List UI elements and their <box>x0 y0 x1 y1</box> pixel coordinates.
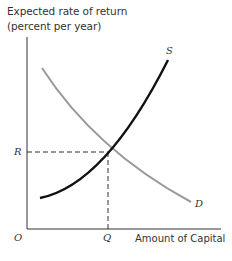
supply-label: S <box>166 45 173 56</box>
chart-canvas <box>0 0 232 261</box>
r-label: R <box>14 146 22 157</box>
x-axis-label: Amount of Capital <box>135 233 225 244</box>
q-label: Q <box>103 232 111 243</box>
demand-curve <box>42 68 191 202</box>
origin-label: O <box>14 232 22 243</box>
demand-label: D <box>195 198 203 209</box>
